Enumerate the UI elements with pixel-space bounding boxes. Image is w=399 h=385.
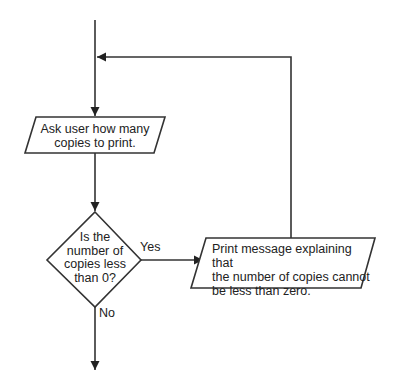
flowchart-canvas — [0, 0, 399, 385]
decision-text: Is the number of copies less than 0? — [60, 231, 130, 285]
yes-label: Yes — [140, 240, 160, 254]
ask-input-line-1: Ask user how many — [34, 122, 156, 136]
print-message-text: Print message explaining that the number… — [212, 242, 372, 298]
ask-input-line-2: copies to print. — [34, 136, 156, 150]
print-message-line-2: the number of copies cannot — [212, 270, 372, 284]
decision-line-4: than 0? — [60, 272, 130, 286]
decision-line-1: Is the — [60, 231, 130, 245]
ask-input-text: Ask user how many copies to print. — [34, 122, 156, 150]
print-message-line-3: be less than zero. — [212, 284, 372, 298]
decision-line-2: number of — [60, 245, 130, 259]
no-label: No — [99, 306, 115, 320]
decision-line-3: copies less — [60, 258, 130, 272]
print-message-line-1: Print message explaining that — [212, 242, 372, 270]
